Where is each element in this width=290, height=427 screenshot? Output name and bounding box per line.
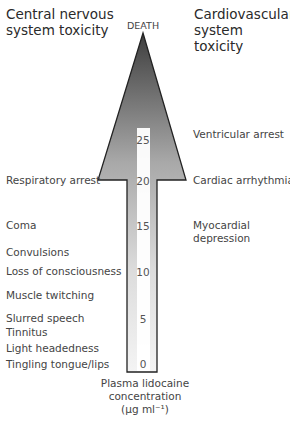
- cns-respiratory-arrest: Respiratory arrest: [6, 174, 100, 187]
- cns-convulsions: Convulsions: [6, 246, 69, 259]
- tick-0: 0: [133, 358, 153, 370]
- tick-10: 10: [133, 266, 153, 278]
- cv-myocardial-depression-line-1: Myocardial: [193, 219, 250, 232]
- tick-25: 25: [133, 134, 153, 146]
- cns-tinnitus: Tinnitus: [6, 326, 47, 339]
- cns-tingling-tongue-lips: Tingling tongue/lips: [6, 358, 109, 371]
- axis-label: Plasma lidocaine concentration (µg ml⁻¹): [90, 377, 200, 416]
- cns-muscle-twitching: Muscle twitching: [6, 289, 94, 302]
- cns-light-headedness: Light headedness: [6, 342, 99, 355]
- cns-coma: Coma: [6, 219, 36, 232]
- tick-15: 15: [133, 220, 153, 232]
- cns-loss-of-consciousness: Loss of consciousness: [6, 265, 121, 278]
- cns-slurred-speech: Slurred speech: [6, 312, 84, 325]
- tick-20: 20: [133, 175, 153, 187]
- axis-label-line-1: Plasma lidocaine: [90, 377, 200, 390]
- cv-myocardial-depression-line-2: depression: [193, 232, 250, 245]
- axis-label-line-2: concentration: [90, 390, 200, 403]
- tick-5: 5: [133, 313, 153, 325]
- cv-cardiac-arrhythmias: Cardiac arrhythmias: [193, 174, 290, 187]
- cv-ventricular-arrest: Ventricular arrest: [193, 128, 284, 141]
- concentration-bar: [137, 128, 150, 371]
- axis-label-units: (µg ml⁻¹): [90, 403, 200, 416]
